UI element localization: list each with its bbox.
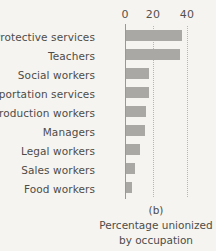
table-row: Transportation services: [0, 85, 216, 104]
bar-managers: [126, 125, 145, 136]
category-label: Legal workers: [21, 145, 95, 157]
table-row: Teachers: [0, 47, 216, 66]
category-label: Transportation services: [0, 88, 95, 100]
bar-protective-services: [126, 30, 182, 41]
bar-transportation-services: [126, 87, 149, 98]
category-label: Social workers: [18, 69, 95, 81]
x-tick-label-20: 20: [141, 8, 165, 21]
bar-teachers: [126, 49, 180, 60]
bar-social-workers: [126, 68, 149, 79]
category-label: Food workers: [24, 183, 95, 195]
bar-legal-workers: [126, 144, 140, 155]
x-tick-label-0: 0: [113, 8, 137, 21]
table-row: Production workers: [0, 104, 216, 123]
table-row: Managers: [0, 123, 216, 142]
figure-caption: (b) Percentage unionized by occupation: [96, 203, 216, 248]
table-row: Social workers: [0, 66, 216, 85]
caption-line-1: Percentage unionized: [96, 218, 216, 233]
caption-line-2: by occupation: [96, 233, 216, 248]
bar-food-workers: [126, 182, 132, 193]
category-label: Managers: [43, 126, 95, 138]
table-row: Food workers: [0, 180, 216, 199]
category-label: Teachers: [48, 50, 95, 62]
table-row: Protective services: [0, 28, 216, 47]
panel-label: (b): [96, 203, 216, 218]
category-label: Production workers: [0, 107, 95, 119]
bar-sales-workers: [126, 163, 135, 174]
x-tick-label-40: 40: [175, 8, 199, 21]
table-row: Sales workers: [0, 161, 216, 180]
bar-production-workers: [126, 106, 146, 117]
bar-chart-figure: 0 20 40 Protective services Teachers Soc…: [0, 0, 216, 251]
table-row: Legal workers: [0, 142, 216, 161]
category-label: Protective services: [0, 31, 95, 43]
category-label: Sales workers: [21, 164, 95, 176]
